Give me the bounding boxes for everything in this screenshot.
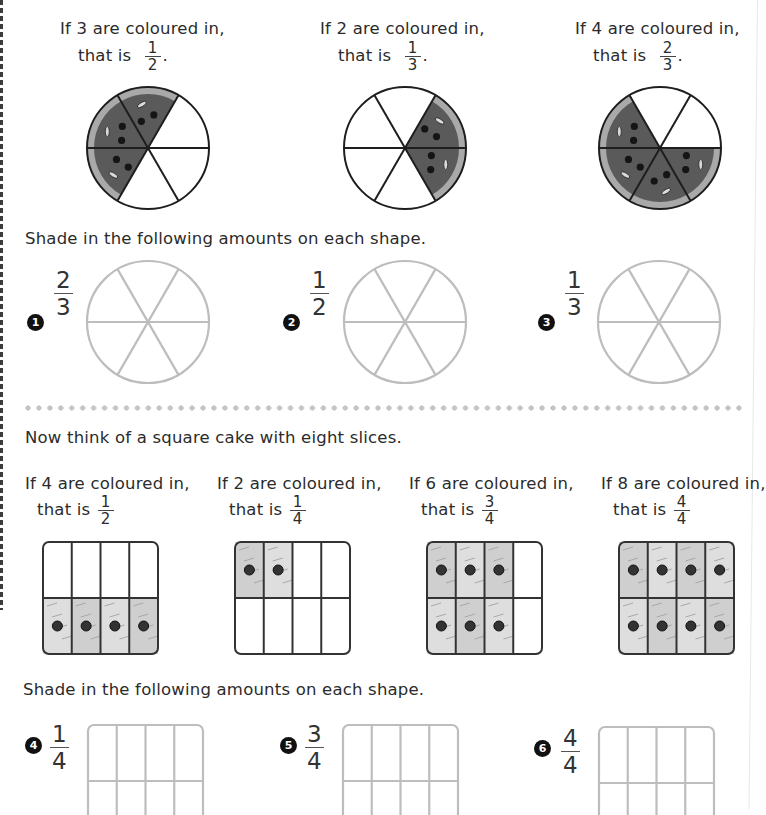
dotted-divider [25,405,745,411]
denominator: 4 [290,511,306,527]
cherry-icon [628,565,638,575]
cake-example-3-line1: If 6 are coloured in, [409,474,574,493]
fraction: 34 [482,494,498,527]
blank-squares[interactable] [0,715,766,815]
numerator: 3 [482,494,498,511]
denominator: 4 [674,511,690,527]
cherry-icon [686,621,696,631]
pizza-3 [599,87,721,209]
blank-circle-1[interactable] [87,261,209,383]
cherry-icon [139,621,149,631]
cake-example-1-line2: that is 12 [37,494,116,527]
cherry-icon [110,621,120,631]
pizza-examples-drawing [0,0,766,230]
cherry-icon [628,621,638,631]
fraction: 44 [674,494,690,527]
cake-example-4-line2: that is 44 [613,494,692,527]
denominator: 2 [98,511,114,527]
blank-circle-3[interactable] [598,261,720,383]
cake-example-1-line1: If 4 are coloured in, [25,474,190,493]
cherry-icon [657,565,667,575]
cherry-icon [244,565,254,575]
fraction: 14 [290,494,306,527]
square-instruction: Shade in the following amounts on each s… [23,680,424,699]
cherry-icon [465,621,475,631]
cake-3 [427,542,542,654]
cake-example-2-line2: that is 14 [229,494,308,527]
cherry-icon [81,621,91,631]
cake-2 [235,542,350,654]
cake-1 [43,542,158,654]
cake-4 [619,542,734,654]
that-is-label: that is [421,500,474,519]
cherry-icon [273,565,283,575]
cherry-icon [715,621,725,631]
blank-circles[interactable] [0,250,766,390]
blank-square-3[interactable] [599,727,714,815]
blank-square-1[interactable] [88,725,203,815]
cake-examples-drawing [0,535,766,665]
that-is-label: that is [37,500,90,519]
fraction: 12 [98,494,114,527]
numerator: 1 [290,494,306,511]
cherry-icon [657,621,667,631]
cake-example-3-line2: that is 34 [421,494,500,527]
numerator: 1 [98,494,114,511]
that-is-label: that is [229,500,282,519]
cake-example-2-line1: If 2 are coloured in, [217,474,382,493]
cherry-icon [686,565,696,575]
denominator: 4 [482,511,498,527]
that-is-label: that is [613,500,666,519]
cherry-icon [465,565,475,575]
circle-instruction: Shade in the following amounts on each s… [25,229,426,248]
numerator: 4 [674,494,690,511]
cherry-icon [436,621,446,631]
cherry-icon [494,565,504,575]
cherry-icon [436,565,446,575]
cake-intro: Now think of a square cake with eight sl… [25,428,402,447]
cake-example-4-line1: If 8 are coloured in, [601,474,766,493]
cherry-icon [715,565,725,575]
cherry-icon [52,621,62,631]
cherry-icon [494,621,504,631]
blank-circle-2[interactable] [344,261,466,383]
blank-square-2[interactable] [343,725,458,815]
pizza-1 [87,87,209,209]
pizza-2 [344,87,466,209]
